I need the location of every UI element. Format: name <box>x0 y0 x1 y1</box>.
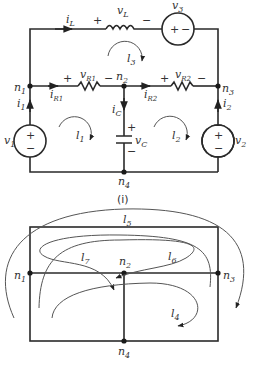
label-n3: n3 <box>222 82 234 97</box>
v2-minus: − <box>214 142 223 155</box>
label-vR2: vR2 <box>175 68 191 83</box>
label-l2: l2 <box>172 129 181 144</box>
graph-node-n4 <box>121 338 126 343</box>
resistor-R1 <box>78 82 100 90</box>
label-n1: n1 <box>14 81 26 96</box>
graph-node-n3 <box>215 270 220 275</box>
circuit-graph <box>5 209 243 344</box>
label-iR2: iR2 <box>144 88 158 103</box>
label-v3: v3 <box>172 0 183 14</box>
label-v2: v2 <box>235 134 246 149</box>
vR2-plus: + <box>160 72 169 85</box>
graph-label-n3: n3 <box>223 269 235 284</box>
node-n3 <box>215 83 220 88</box>
loop-arrow-l2 <box>154 116 187 140</box>
label-l7: l7 <box>81 251 91 266</box>
v3-minus: − <box>181 23 190 36</box>
label-vR1: vR1 <box>80 68 96 83</box>
label-i1: i1 <box>17 97 26 112</box>
graph-label-n1: n1 <box>14 269 26 284</box>
label-i2: i2 <box>223 97 232 112</box>
label-n2: n2 <box>116 70 128 85</box>
vR1-plus: + <box>63 72 72 85</box>
v1-minus: − <box>26 142 35 155</box>
vC-plus: + <box>127 121 136 134</box>
figure-caption: (i) <box>117 193 129 206</box>
v1-plus: + <box>26 129 35 142</box>
vL-plus: + <box>93 14 102 27</box>
circuit-schematic <box>14 13 234 175</box>
label-iL: iL <box>66 13 75 28</box>
label-l5: l5 <box>123 213 132 228</box>
label-iC: iC <box>112 103 122 118</box>
label-vL: vL <box>117 4 129 19</box>
node-n4 <box>121 169 126 174</box>
label-v1: v1 <box>4 134 15 149</box>
graph-label-n4: n4 <box>118 345 130 360</box>
label-l1: l1 <box>76 129 85 144</box>
loop-arrow-l3 <box>108 41 142 61</box>
vL-minus: − <box>142 14 151 27</box>
inductor-L <box>106 26 162 30</box>
label-l3: l3 <box>127 52 136 67</box>
graph-node-n1 <box>27 270 32 275</box>
label-l6: l6 <box>168 250 177 265</box>
node-n1 <box>27 83 32 88</box>
label-vC: vC <box>135 134 147 149</box>
v2-plus: + <box>214 129 223 142</box>
graph-label-n2: n2 <box>119 255 131 270</box>
vR1-minus: − <box>104 72 113 85</box>
label-iR1: iR1 <box>50 88 63 103</box>
v3-plus: + <box>170 23 179 36</box>
capacitor-C <box>116 136 132 143</box>
vR2-minus: − <box>197 72 206 85</box>
label-l4: l4 <box>171 307 180 322</box>
label-n4: n4 <box>118 175 130 190</box>
circuit-figure: + − + − + − + − + − + − + − iL vL v3 l3 … <box>0 0 253 366</box>
resistor-R2 <box>171 82 193 90</box>
